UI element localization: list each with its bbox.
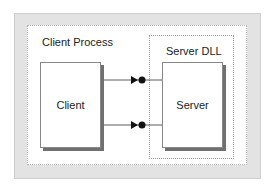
client-process-label: Client Process <box>42 36 113 48</box>
server-dll-label: Server DLL <box>166 45 222 57</box>
client-box: Client <box>40 62 101 148</box>
server-box: Server <box>162 62 223 148</box>
server-label: Server <box>176 99 208 111</box>
client-label: Client <box>56 99 84 111</box>
